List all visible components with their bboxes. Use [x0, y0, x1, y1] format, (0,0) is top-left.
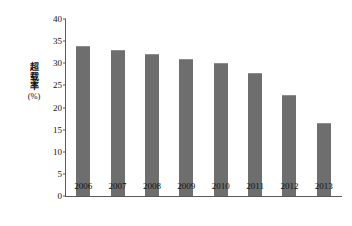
y-axis-tick-label: 15	[53, 125, 62, 135]
x-axis-tick-label: 2007	[109, 181, 127, 191]
bar-slot	[307, 19, 341, 196]
x-axis-tick-label: 2012	[280, 181, 298, 191]
bar-slot	[272, 19, 306, 196]
bar	[214, 63, 228, 196]
x-axis-tick-label: 2006	[74, 181, 92, 191]
bar-slot	[169, 19, 203, 196]
y-axis-tick-label: 30	[53, 58, 62, 68]
y-axis-tick-label: 0	[58, 191, 63, 201]
x-axis-tick-label: 2008	[143, 181, 161, 191]
x-axis-line	[65, 196, 342, 197]
bar-slot	[204, 19, 238, 196]
bar-slot	[100, 19, 134, 196]
x-axis-tick-label: 2010	[212, 181, 230, 191]
y-axis-tick-label: 20	[53, 103, 62, 113]
y-axis-title: 超 载 率 (%)	[20, 63, 48, 101]
plot-area: 0510152025303540	[66, 19, 341, 196]
bar-slot	[135, 19, 169, 196]
y-axis-tick-label: 35	[53, 36, 62, 46]
bar-chart-figure: 超 载 率 (%) 0510152025303540 2006200720082…	[0, 0, 352, 226]
y-axis-title-unit: (%)	[20, 92, 48, 102]
x-axis-tick-label: 2013	[315, 181, 333, 191]
bar	[145, 54, 159, 196]
y-axis-tick-label: 5	[58, 169, 63, 179]
bars-group	[66, 19, 341, 196]
x-axis-tick-label: 2011	[246, 181, 264, 191]
bar	[111, 50, 125, 196]
y-axis-tick-label: 10	[53, 147, 62, 157]
y-axis-tick-label: 40	[53, 14, 62, 24]
bar	[248, 73, 262, 196]
bar	[76, 46, 90, 196]
bar-slot	[238, 19, 272, 196]
bar-slot	[66, 19, 100, 196]
y-axis-tick-label: 25	[53, 80, 62, 90]
x-axis-tick-label: 2009	[177, 181, 195, 191]
bar	[179, 59, 193, 196]
